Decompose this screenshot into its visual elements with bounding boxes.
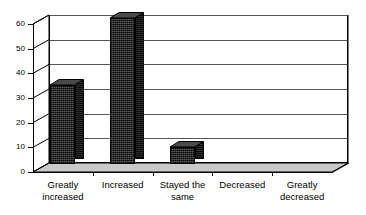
y-tick-mark [28, 24, 33, 25]
bar [170, 140, 195, 164]
x-category-label: Increased [93, 179, 153, 191]
bar-top-face [50, 79, 84, 86]
bar-front-face [170, 147, 195, 164]
x-tick-mark [272, 172, 273, 176]
y-axis-ticks: 0102030405060 [0, 0, 25, 215]
y-tick-mark [28, 49, 33, 50]
y-tick-label: 10 [16, 143, 25, 151]
y-tick-label: 60 [16, 20, 25, 28]
x-tick-mark [93, 172, 94, 176]
y-tick-label: 30 [16, 94, 25, 102]
x-category-label: Stayed the same [153, 179, 213, 202]
x-category-label: Decreased [212, 179, 272, 191]
x-tick-mark [212, 172, 213, 176]
bar [110, 11, 135, 164]
x-tick-mark [153, 172, 154, 176]
x-axis-category-labels: Greatly increasedIncreasedStayed the sam… [33, 179, 349, 213]
y-tick-label: 20 [16, 119, 25, 127]
bar-top-face [170, 141, 204, 148]
bar [290, 157, 315, 164]
bar-front-face [110, 18, 135, 164]
y-tick-mark [28, 172, 33, 173]
bar-top-face [110, 12, 144, 19]
bar-series [33, 15, 349, 173]
x-category-label: Greatly increased [33, 179, 93, 202]
bar-front-face [50, 85, 75, 164]
y-tick-label: 0 [21, 168, 25, 176]
y-tick-mark [28, 98, 33, 99]
y-tick-label: 40 [16, 69, 25, 77]
bar [50, 78, 75, 164]
x-category-label: Greatly decreased [272, 179, 332, 202]
bar [230, 157, 255, 164]
y-tick-mark [28, 123, 33, 124]
y-tick-label: 50 [16, 45, 25, 53]
y-tick-mark [28, 73, 33, 74]
bar-side-face [75, 80, 84, 159]
bar-chart: 0102030405060 Greatly increasedIncreased… [0, 0, 366, 215]
bar-side-face [135, 13, 144, 159]
y-tick-mark [28, 147, 33, 148]
